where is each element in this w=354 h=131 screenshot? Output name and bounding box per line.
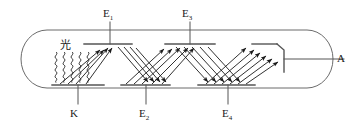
dynode-4-label-base: E bbox=[222, 107, 229, 119]
dynode-1-label-base: E bbox=[103, 7, 110, 19]
dynode-3-label-base: E bbox=[182, 7, 189, 19]
anode-label: A bbox=[337, 53, 345, 64]
dynode-1-label-sub: 1 bbox=[110, 14, 114, 22]
light-label: 光 bbox=[60, 40, 71, 51]
dynode-4-label-sub: 4 bbox=[229, 114, 233, 122]
dynode-1-label: E1 bbox=[103, 8, 113, 22]
dynode-2-label: E2 bbox=[139, 108, 149, 122]
dynode-3-label: E3 bbox=[182, 8, 192, 22]
electron-beam-e2-to-e3 bbox=[126, 48, 194, 84]
electrode-plates bbox=[52, 22, 344, 104]
photon-wave-lines bbox=[55, 52, 89, 83]
cathode-label: K bbox=[70, 108, 78, 119]
electron-beam-k-to-e1 bbox=[60, 48, 112, 84]
dynode-2-label-sub: 2 bbox=[146, 114, 150, 122]
dynode-2-label-base: E bbox=[139, 107, 146, 119]
photomultiplier-tube-figure: 光 K E1 E2 E3 E4 A bbox=[0, 0, 354, 131]
dynode-4-label: E4 bbox=[222, 108, 232, 122]
anode-bracket bbox=[277, 44, 284, 72]
diagram-canvas bbox=[0, 0, 354, 131]
dynode-3-label-sub: 3 bbox=[189, 14, 193, 22]
